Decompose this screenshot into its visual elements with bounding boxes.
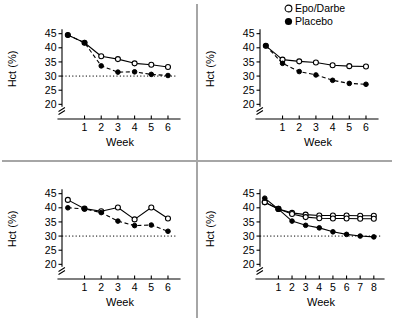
data-point-open bbox=[317, 216, 322, 221]
data-point-filled bbox=[344, 232, 349, 237]
data-point-open bbox=[149, 205, 154, 210]
x-axis-title: Week bbox=[106, 136, 134, 148]
data-point-filled bbox=[66, 33, 71, 38]
axis-break-mark bbox=[257, 108, 263, 115]
y-axis-tick-label: 45 bbox=[243, 27, 255, 39]
data-point-filled bbox=[116, 70, 121, 75]
y-axis-tick-label: 40 bbox=[243, 201, 255, 213]
data-point-filled bbox=[166, 73, 171, 78]
y-axis-tick-label: 20 bbox=[243, 258, 255, 270]
data-point-filled bbox=[364, 82, 369, 87]
data-point-open bbox=[115, 57, 120, 62]
y-axis-tick-label: 30 bbox=[45, 230, 57, 242]
x-axis-tick-label: 2 bbox=[98, 121, 104, 133]
data-point-filled bbox=[331, 230, 336, 235]
y-axis-tick-label: 25 bbox=[45, 244, 57, 256]
y-axis-tick-label: 25 bbox=[243, 84, 255, 96]
data-point-open bbox=[303, 215, 308, 220]
data-point-filled bbox=[66, 205, 71, 210]
data-point-open bbox=[330, 63, 335, 68]
data-point-filled bbox=[280, 61, 285, 66]
x-axis-tick-label: 5 bbox=[330, 281, 336, 293]
data-point-open bbox=[165, 216, 170, 221]
data-point-filled bbox=[132, 70, 137, 75]
data-point-filled bbox=[99, 64, 104, 69]
x-axis-tick-label: 2 bbox=[289, 281, 295, 293]
y-axis-tick-label: 20 bbox=[45, 258, 57, 270]
data-point-open bbox=[165, 65, 170, 70]
y-axis-tick-label: 35 bbox=[243, 216, 255, 228]
data-point-open bbox=[330, 216, 335, 221]
data-point-open bbox=[290, 212, 295, 217]
y-axis-tick-label: 40 bbox=[45, 41, 57, 53]
plot-area: Hct (%)202530354045123456Week bbox=[198, 6, 394, 160]
x-axis-tick-label: 2 bbox=[98, 281, 104, 293]
data-point-open bbox=[371, 216, 376, 221]
x-axis-tick-label: 6 bbox=[165, 281, 171, 293]
x-axis-tick-label: 6 bbox=[165, 121, 171, 133]
data-point-filled bbox=[82, 207, 87, 212]
data-point-filled bbox=[262, 196, 267, 201]
y-axis-title: Hct (%) bbox=[6, 211, 18, 248]
x-axis-tick-label: 5 bbox=[148, 281, 154, 293]
y-axis-tick-label: 35 bbox=[45, 216, 57, 228]
x-axis-title: Week bbox=[307, 296, 335, 308]
data-point-open bbox=[358, 216, 363, 221]
plot-area: Hct (%)202530354045123456Week bbox=[0, 6, 196, 160]
data-point-filled bbox=[358, 234, 363, 239]
y-axis-tick-label: 40 bbox=[45, 201, 57, 213]
data-point-filled bbox=[290, 219, 295, 224]
y-axis-tick-label: 20 bbox=[243, 98, 255, 110]
x-axis-tick-label: 5 bbox=[148, 121, 154, 133]
x-axis-tick-label: 4 bbox=[132, 121, 138, 133]
data-point-filled bbox=[314, 73, 319, 78]
y-axis-tick-label: 20 bbox=[45, 98, 57, 110]
x-axis-tick-label: 3 bbox=[303, 281, 309, 293]
y-axis-tick-label: 45 bbox=[243, 187, 255, 199]
data-point-filled bbox=[99, 210, 104, 215]
data-point-filled bbox=[82, 40, 87, 45]
data-point-filled bbox=[303, 223, 308, 228]
data-point-filled bbox=[149, 72, 154, 77]
x-axis-tick-label: 4 bbox=[316, 281, 322, 293]
chart-panel-top-left: Hct (%)202530354045123456Week bbox=[0, 6, 196, 160]
x-axis-tick-label: 6 bbox=[344, 281, 350, 293]
x-axis-tick-label: 1 bbox=[82, 281, 88, 293]
axis-break-mark bbox=[59, 108, 65, 115]
data-point-filled bbox=[264, 44, 269, 49]
x-axis-tick-label: 1 bbox=[280, 121, 286, 133]
data-point-open bbox=[344, 216, 349, 221]
data-point-filled bbox=[330, 78, 335, 83]
x-axis-tick-label: 3 bbox=[115, 281, 121, 293]
y-axis-tick-label: 30 bbox=[45, 70, 57, 82]
plot-area: Hct (%)202530354045123456Week bbox=[0, 162, 196, 320]
data-point-filled bbox=[116, 219, 121, 224]
x-axis-tick-label: 1 bbox=[82, 121, 88, 133]
x-axis-tick-label: 4 bbox=[330, 121, 336, 133]
chart-panel-bottom-left: Hct (%)202530354045123456Week bbox=[0, 162, 196, 320]
x-axis-tick-label: 5 bbox=[346, 121, 352, 133]
data-point-filled bbox=[317, 226, 322, 231]
x-axis-title: Week bbox=[106, 296, 134, 308]
data-point-filled bbox=[166, 229, 171, 234]
y-axis-tick-label: 25 bbox=[243, 244, 255, 256]
axis-break-mark bbox=[257, 268, 263, 275]
data-point-open bbox=[132, 217, 137, 222]
data-point-filled bbox=[149, 223, 154, 228]
x-axis-tick-label: 2 bbox=[296, 121, 302, 133]
y-axis-tick-label: 35 bbox=[45, 56, 57, 68]
data-point-filled bbox=[132, 223, 137, 228]
data-point-open bbox=[347, 64, 352, 69]
x-axis-title: Week bbox=[304, 136, 332, 148]
x-axis-tick-label: 3 bbox=[313, 121, 319, 133]
x-axis-tick-label: 6 bbox=[363, 121, 369, 133]
data-point-open bbox=[363, 64, 368, 69]
data-point-open bbox=[132, 61, 137, 66]
data-point-open bbox=[99, 54, 104, 59]
x-axis-tick-label: 7 bbox=[357, 281, 363, 293]
y-axis-tick-label: 45 bbox=[45, 27, 57, 39]
y-axis-title: Hct (%) bbox=[204, 51, 216, 88]
data-point-filled bbox=[347, 81, 352, 86]
data-point-open bbox=[65, 197, 70, 202]
y-axis-tick-label: 30 bbox=[243, 70, 255, 82]
